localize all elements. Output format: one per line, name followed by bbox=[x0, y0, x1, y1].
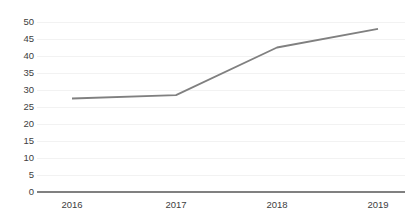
x-axis-tick-label: 2019 bbox=[348, 199, 408, 210]
x-axis-tick-label: 2018 bbox=[247, 199, 307, 210]
x-axis-tick-label: 2016 bbox=[42, 199, 102, 210]
x-axis-tick-labels: 2016201720182019 bbox=[0, 0, 415, 220]
line-chart: 05101520253035404550 2016201720182019 bbox=[0, 0, 415, 220]
x-axis-tick-label: 2017 bbox=[146, 199, 206, 210]
